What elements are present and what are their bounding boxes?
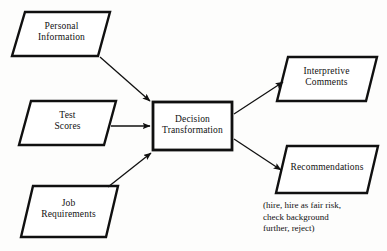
shape-decision-transformation: [153, 102, 232, 150]
arrow-personal-to-decision: [100, 57, 150, 101]
recommendations-caption: (hire, hire as fair risk, check backgrou…: [263, 200, 387, 235]
arrow-decision-to-interpretive: [234, 82, 283, 114]
shape-recommendations: [276, 146, 378, 193]
shape-personal-information: [12, 12, 110, 56]
arrow-job-requirements-to-decision: [108, 153, 151, 187]
shape-interpretive-comments: [277, 57, 377, 101]
arrow-decision-to-recommendations: [234, 139, 281, 170]
decision-transformation-diagram: Personal Information Test Scores Job Req…: [0, 0, 387, 251]
shape-job-requirements: [21, 186, 118, 237]
shape-test-scores: [19, 101, 116, 145]
